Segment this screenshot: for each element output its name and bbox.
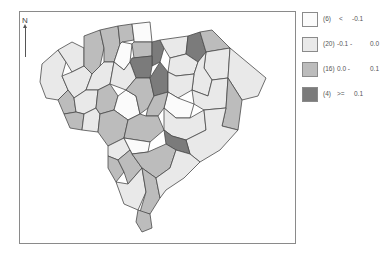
legend-count: (4) — [323, 90, 331, 97]
legend-count: (16) — [323, 65, 335, 72]
county[interactable] — [132, 42, 152, 58]
legend-swatch — [302, 87, 318, 102]
legend-item: (20) -0.1 - 0.0 — [302, 37, 387, 62]
legend-item: (6) < -0.1 — [302, 12, 387, 37]
legend-range-high: 0.0 — [370, 40, 379, 47]
county[interactable] — [64, 112, 84, 130]
legend-count: (20) — [323, 40, 335, 47]
legend-swatch — [302, 12, 318, 27]
legend: (6) < -0.1 (20) -0.1 - 0.0 (16) 0.0 - 0.… — [302, 12, 387, 112]
county[interactable] — [150, 62, 168, 96]
north-arrow-icon — [25, 27, 26, 57]
legend-operator: < — [339, 15, 343, 22]
legend-range-low: -0.1 - — [337, 40, 352, 47]
legend-swatch — [302, 62, 318, 77]
legend-range-high: -0.1 — [352, 15, 363, 22]
legend-item: (4) >= 0.1 — [302, 87, 387, 112]
legend-item: (16) 0.0 - 0.1 — [302, 62, 387, 87]
county[interactable] — [118, 24, 134, 44]
counties — [40, 22, 266, 232]
legend-range-low: >= — [337, 90, 345, 97]
legend-swatch — [302, 37, 318, 52]
legend-count: (6) — [323, 15, 331, 22]
legend-range-low: 0.0 - — [337, 65, 350, 72]
legend-range-high: 0.1 — [354, 90, 363, 97]
legend-range-high: 0.1 — [370, 65, 379, 72]
county[interactable] — [132, 22, 152, 42]
